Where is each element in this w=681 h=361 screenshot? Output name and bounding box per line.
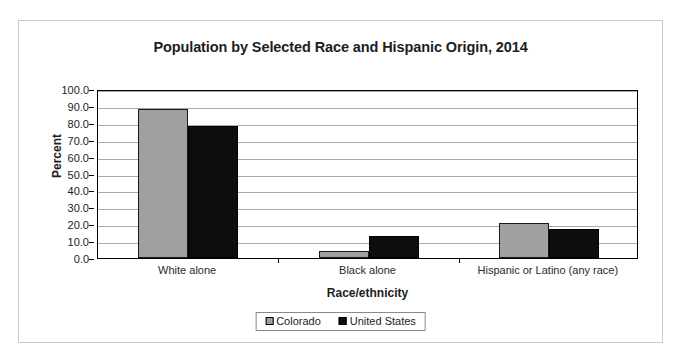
y-tick-label: 50.0 bbox=[68, 169, 89, 181]
x-axis-title: Race/ethnicity bbox=[97, 286, 638, 300]
y-tick-mark bbox=[89, 259, 94, 260]
legend-label: United States bbox=[350, 315, 416, 327]
bar-colorado-0 bbox=[138, 109, 188, 258]
legend-item-united-states[interactable]: United States bbox=[339, 315, 416, 327]
y-tick-label: 40.0 bbox=[68, 185, 89, 197]
y-axis-tick-labels: 0.010.020.030.040.050.060.070.080.090.01… bbox=[37, 90, 93, 259]
bar-colorado-1 bbox=[319, 251, 369, 258]
y-tick-label: 80.0 bbox=[68, 118, 89, 130]
legend-swatch-icon bbox=[265, 317, 273, 325]
y-tick-mark bbox=[89, 124, 94, 125]
x-tick-label: Hispanic or Latino (any race) bbox=[478, 264, 619, 276]
plot-area bbox=[97, 90, 638, 259]
legend-swatch-icon bbox=[339, 317, 347, 325]
bars-layer bbox=[98, 91, 637, 258]
chart-figure: Population by Selected Race and Hispanic… bbox=[18, 20, 663, 343]
x-axis-tick-labels: White aloneBlack aloneHispanic or Latino… bbox=[97, 264, 638, 282]
y-tick-label: 0.0 bbox=[74, 253, 89, 265]
y-tick-mark bbox=[89, 242, 94, 243]
y-tick-mark bbox=[89, 158, 94, 159]
y-tick-label: 30.0 bbox=[68, 202, 89, 214]
x-tick-label: Black alone bbox=[339, 264, 396, 276]
bar-united-states-1 bbox=[369, 236, 419, 258]
y-tick-mark bbox=[89, 191, 94, 192]
cut-off-header-text bbox=[24, 0, 524, 4]
y-tick-label: 10.0 bbox=[68, 236, 89, 248]
legend-label: Colorado bbox=[276, 315, 321, 327]
y-tick-mark bbox=[89, 141, 94, 142]
y-tick-label: 70.0 bbox=[68, 135, 89, 147]
y-tick-mark bbox=[89, 107, 94, 108]
bar-colorado-2 bbox=[499, 223, 549, 258]
legend-item-colorado[interactable]: Colorado bbox=[265, 315, 321, 327]
category-tick bbox=[459, 258, 460, 263]
category-tick bbox=[278, 258, 279, 263]
y-tick-mark bbox=[89, 90, 94, 91]
chart-title: Population by Selected Race and Hispanic… bbox=[19, 39, 662, 55]
y-tick-label: 20.0 bbox=[68, 219, 89, 231]
y-tick-label: 60.0 bbox=[68, 152, 89, 164]
y-tick-label: 100.0 bbox=[61, 84, 89, 96]
bar-united-states-2 bbox=[549, 229, 599, 258]
bar-united-states-0 bbox=[188, 126, 238, 258]
y-tick-mark bbox=[89, 225, 94, 226]
chart-legend: ColoradoUnited States bbox=[255, 312, 426, 331]
y-tick-mark bbox=[89, 208, 94, 209]
x-tick-label: White alone bbox=[158, 264, 216, 276]
y-tick-mark bbox=[89, 175, 94, 176]
y-tick-label: 90.0 bbox=[68, 101, 89, 113]
